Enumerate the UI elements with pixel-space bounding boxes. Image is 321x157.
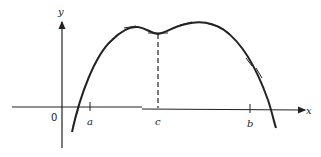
function-curve (72, 22, 276, 132)
label-c: c (155, 116, 161, 127)
tangent-8 (222, 28, 230, 34)
tangent-2 (92, 56, 99, 70)
tangent-3 (106, 38, 115, 46)
label-b: b (247, 118, 253, 129)
tangent-1 (73, 110, 78, 126)
label-a: a (87, 116, 93, 127)
x-axis-right (142, 109, 305, 110)
y-axis-label: y (57, 6, 64, 17)
origin-label: 0 (51, 112, 57, 123)
x-axis-label: x (306, 105, 312, 116)
diagram-canvas: y x 0 a b c (0, 0, 321, 157)
